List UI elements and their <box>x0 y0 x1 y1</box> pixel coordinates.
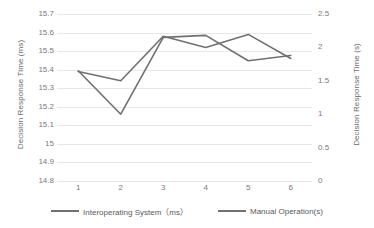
y-axis-left-tick: 15.7 <box>14 9 54 18</box>
series-lines <box>57 14 312 181</box>
y-axis-left-tick: 15 <box>14 139 54 148</box>
series-line <box>78 35 291 114</box>
y-axis-right-tick: 1 <box>318 109 348 118</box>
y-axis-left-tick: 15.5 <box>14 46 54 55</box>
y-axis-left-tick: 15.3 <box>14 83 54 92</box>
series-line <box>78 34 291 80</box>
y-axis-left-tick: 14.8 <box>14 176 54 185</box>
y-axis-right-tick: 2 <box>318 42 348 51</box>
legend-item[interactable]: Manual Operation(s) <box>218 207 323 216</box>
line-chart: Decision Response Time (ms) Decision Res… <box>0 0 374 228</box>
y-axis-left-tick: 15.1 <box>14 120 54 129</box>
y-axis-right-tick: 0.5 <box>318 143 348 152</box>
x-axis-tick: 3 <box>151 183 175 192</box>
y-axis-left-tick: 15.2 <box>14 102 54 111</box>
y-axis-left-ticks: 15.715.615.515.415.315.215.11514.914.8 <box>14 0 54 228</box>
y-axis-left-tick: 14.9 <box>14 157 54 166</box>
y-axis-right-tick: 0 <box>318 176 348 185</box>
y-axis-right-title: Decision Response Time (s) <box>352 35 361 155</box>
legend-swatch-icon <box>218 210 246 212</box>
legend-item[interactable]: Interoperating System（ms） <box>51 206 188 217</box>
chart-legend: Interoperating System（ms）Manual Operatio… <box>0 203 374 219</box>
x-axis-tick: 5 <box>236 183 260 192</box>
legend-swatch-icon <box>51 210 79 212</box>
y-axis-left-tick: 15.4 <box>14 65 54 74</box>
x-axis-tick: 1 <box>66 183 90 192</box>
legend-label: Interoperating System（ms） <box>83 206 188 217</box>
y-axis-right-tick: 2.5 <box>318 9 348 18</box>
y-axis-right-tick: 1.5 <box>318 76 348 85</box>
y-axis-right-ticks: 2.521.510.50 <box>318 0 348 228</box>
y-axis-left-tick: 15.6 <box>14 28 54 37</box>
plot-area <box>57 14 312 181</box>
gridline <box>57 181 312 182</box>
legend-label: Manual Operation(s) <box>250 207 323 216</box>
x-axis-ticks: 123456 <box>57 183 312 197</box>
x-axis-tick: 2 <box>109 183 133 192</box>
x-axis-tick: 6 <box>279 183 303 192</box>
x-axis-tick: 4 <box>194 183 218 192</box>
